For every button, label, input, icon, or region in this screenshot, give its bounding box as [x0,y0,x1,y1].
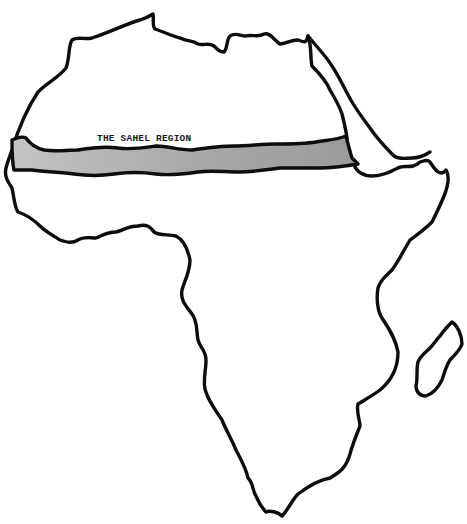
sahel-region-label: THE SAHEL REGION [97,133,191,144]
africa-continent-outline [5,14,448,516]
madagascar-outline [416,322,462,396]
africa-map [0,0,467,524]
